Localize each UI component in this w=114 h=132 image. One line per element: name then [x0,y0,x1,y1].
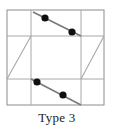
bottom-segment-dot-2 [59,91,66,98]
top-segment-dot-2 [68,28,75,35]
figure-container: Type 3 [0,0,114,132]
diagram-background [0,0,114,114]
top-segment-dot-1 [41,14,48,21]
bottom-segment-dot-1 [33,78,40,85]
figure-caption: Type 3 [0,110,114,126]
type-3-tiling-diagram [0,0,114,114]
